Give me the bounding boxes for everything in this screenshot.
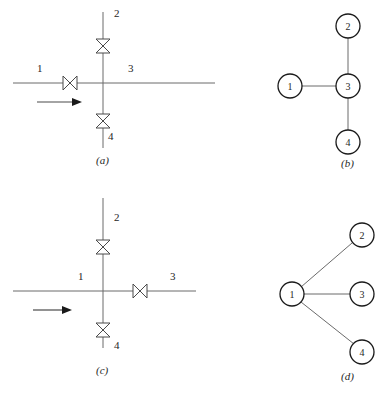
panel-caption-a: (a) [96,155,109,166]
pipe-label-3-a: 3 [128,63,134,74]
graph-node-4-d: 4 [350,340,374,364]
graph-node-4-b: 4 [336,130,360,154]
valve-branch-4-a [96,114,110,128]
pipe-label-2-a: 2 [114,8,120,19]
graph-edge-1-2-d [301,243,352,287]
panel-caption-c: (c) [96,365,108,376]
panel-d-drawing: 2 1 3 4 [240,190,387,390]
panel-c-piping-schematic: 1 2 3 4 (c) [0,190,230,390]
pipe-label-3-c: 3 [170,271,176,282]
panel-b-drawing: 2 1 3 4 [240,0,387,178]
valve-branch-3-c [133,284,147,298]
panel-a-piping-schematic: 1 2 3 4 (a) [0,0,230,178]
valve-branch-2-a [96,39,110,53]
panel-caption-b: (b) [341,158,354,169]
pipe-label-1-c: 1 [78,271,84,282]
pipe-label-4-a: 4 [108,131,114,142]
svg-text:4: 4 [346,137,351,148]
graph-node-3-b: 3 [336,74,360,98]
svg-text:1: 1 [290,289,295,300]
pipe-label-2-c: 2 [114,212,120,223]
graph-edge-1-4-d [301,302,354,344]
flow-arrow-c [33,306,72,314]
panel-d-graph: 2 1 3 4 (d) [240,190,387,390]
svg-text:4: 4 [360,347,365,358]
graph-node-1-d: 1 [280,282,304,306]
panel-caption-d: (d) [341,371,354,382]
graph-node-1-b: 1 [278,74,302,98]
svg-text:3: 3 [346,81,351,92]
pipe-label-4-c: 4 [114,340,120,351]
svg-text:3: 3 [360,289,365,300]
svg-text:1: 1 [288,81,293,92]
graph-node-2-d: 2 [350,223,374,247]
svg-text:2: 2 [360,230,365,241]
panel-a-drawing [0,0,230,178]
valve-branch-2-c [96,240,110,254]
panel-b-graph: 2 1 3 4 (b) [240,0,387,178]
pipe-label-1-a: 1 [37,63,43,74]
valve-branch-1-a [63,76,77,90]
valve-branch-4-c [96,323,110,337]
graph-node-3-d: 3 [350,282,374,306]
svg-text:2: 2 [346,21,351,32]
graph-node-2-b: 2 [336,14,360,38]
figure-canvas: 1 2 3 4 (a) 2 1 3 [0,0,387,410]
flow-arrow-a [37,98,82,106]
